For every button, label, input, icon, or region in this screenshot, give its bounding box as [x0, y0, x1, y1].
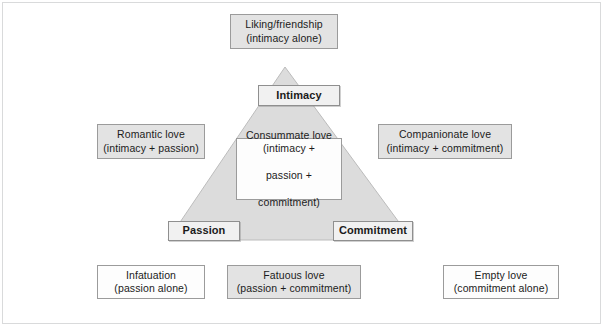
- infatuation-line-2: (passion alone): [102, 282, 200, 296]
- label-box-companionate-love: Companionate love (intimacy + commitment…: [378, 124, 512, 159]
- romantic-line-2: (intimacy + passion): [102, 142, 200, 156]
- vertex-label-intimacy: Intimacy: [276, 89, 321, 101]
- romantic-line-1: Romantic love: [117, 128, 185, 140]
- label-box-consummate-love: Consummate love (intimacy + passion + co…: [236, 138, 342, 200]
- label-box-empty-love: Empty love (commitment alone): [443, 265, 559, 299]
- label-box-liking-friendship: Liking/friendship (intimacy alone): [230, 14, 338, 49]
- infatuation-line-1: Infatuation: [126, 269, 176, 281]
- vertex-label-passion: Passion: [183, 224, 226, 236]
- companionate-line-2: (intimacy + commitment): [383, 142, 507, 156]
- label-box-infatuation: Infatuation (passion alone): [97, 265, 205, 299]
- liking-line-2: (intimacy alone): [235, 32, 333, 46]
- love-triangle-figure: Liking/friendship (intimacy alone) Intim…: [0, 0, 607, 329]
- vertex-label-commitment: Commitment: [339, 224, 407, 236]
- vertex-box-passion: Passion: [168, 221, 240, 241]
- companionate-line-1: Companionate love: [399, 128, 491, 140]
- label-box-romantic-love: Romantic love (intimacy + passion): [97, 124, 205, 159]
- consummate-line-3: passion +: [241, 169, 337, 183]
- vertex-box-commitment: Commitment: [333, 221, 413, 241]
- empty-line-1: Empty love: [475, 269, 528, 281]
- fatuous-line-2: (passion + commitment): [232, 282, 356, 296]
- empty-line-2: (commitment alone): [448, 282, 554, 296]
- fatuous-line-1: Fatuous love: [263, 269, 324, 281]
- label-box-fatuous-love: Fatuous love (passion + commitment): [227, 265, 361, 299]
- liking-line-1: Liking/friendship: [245, 18, 323, 30]
- consummate-line-2: (intimacy +: [241, 142, 337, 156]
- consummate-line-1: Consummate love: [246, 129, 332, 141]
- consummate-line-4: commitment): [241, 196, 337, 210]
- vertex-box-intimacy: Intimacy: [258, 85, 340, 106]
